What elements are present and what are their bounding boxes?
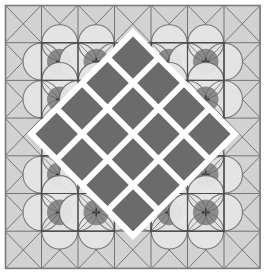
board-group <box>5 5 261 269</box>
tiling-svg <box>0 0 266 274</box>
pattern-canvas <box>0 0 266 274</box>
tile-artboard <box>0 0 266 274</box>
